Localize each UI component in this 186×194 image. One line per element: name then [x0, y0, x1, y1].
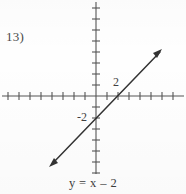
x-axis [2, 92, 184, 100]
line-arrowhead-upper-right [153, 49, 162, 58]
equation-caption: y = x – 2 [0, 177, 186, 190]
graph-problem-figure: 13) [0, 0, 186, 194]
y-intercept-label: -2 [77, 111, 87, 123]
coordinate-plane [0, 0, 186, 194]
y-axis [92, 2, 100, 174]
plotted-line [49, 49, 162, 167]
x-intercept-label: 2 [113, 76, 119, 88]
